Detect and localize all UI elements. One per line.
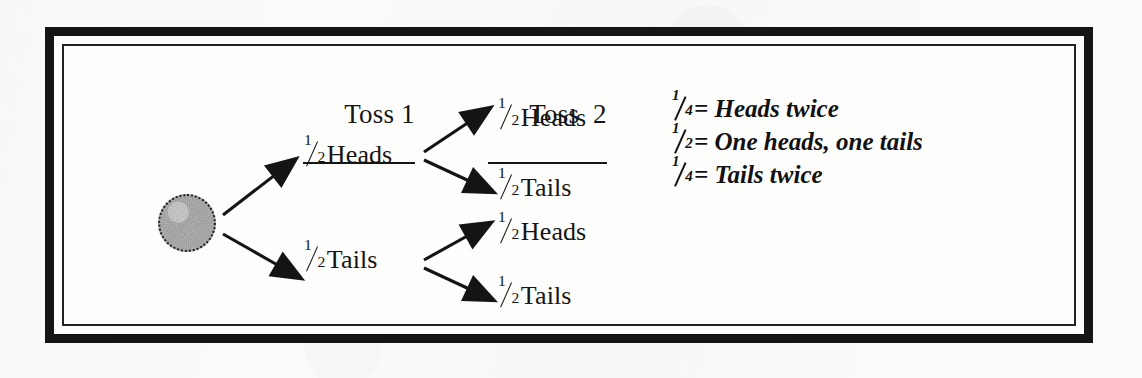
- edge-tails-to-tails: [424, 268, 480, 294]
- fraction-one-half: 12: [304, 137, 324, 163]
- figure-canvas: Toss 1 Toss 2 12Heads 12Tails 12Heads 12…: [0, 0, 1142, 378]
- fraction-one-half: 12: [304, 242, 324, 268]
- legend-row-one-heads-one-tails: 12= One heads, one tails: [672, 125, 923, 158]
- legend-row-heads-twice: 14= Heads twice: [672, 92, 923, 125]
- branch-label-toss2-heads-tails: 12Tails: [498, 170, 572, 203]
- legend-text: Heads twice: [715, 95, 839, 122]
- branch-label-toss1-heads: 12Heads: [304, 137, 392, 170]
- branch-label-toss2-heads-heads: 12Heads: [498, 100, 586, 133]
- fraction-one-half: 12: [498, 278, 518, 304]
- legend-row-tails-twice: 14= Tails twice: [672, 158, 923, 191]
- fraction-one-quarter: 14: [672, 92, 692, 117]
- branch-label-toss1-tails: 12Tails: [304, 242, 378, 275]
- fraction-one-half: 12: [498, 100, 518, 126]
- edge-root-to-heads: [223, 168, 284, 215]
- outcome-probability-legend: 14= Heads twice 12= One heads, one tails…: [672, 92, 923, 191]
- fraction-one-quarter: 14: [672, 158, 692, 183]
- legend-text: One heads, one tails: [715, 128, 923, 155]
- branch-label-toss2-tails-tails: 12Tails: [498, 278, 572, 311]
- branch-label-toss2-tails-heads: 12Heads: [498, 214, 586, 247]
- edge-tails-to-heads: [424, 230, 478, 260]
- edge-heads-to-tails: [424, 160, 480, 186]
- fraction-one-half: 12: [498, 170, 518, 196]
- fraction-one-half: 12: [498, 214, 518, 240]
- probability-tree-diagram: Toss 1 Toss 2 12Heads 12Tails 12Heads 12…: [0, 0, 1142, 378]
- tree-root-node: [158, 194, 216, 252]
- legend-text: Tails twice: [715, 161, 823, 188]
- fraction-one-half: 12: [672, 125, 692, 150]
- edge-heads-to-heads: [424, 116, 478, 152]
- edge-root-to-tails: [223, 234, 288, 271]
